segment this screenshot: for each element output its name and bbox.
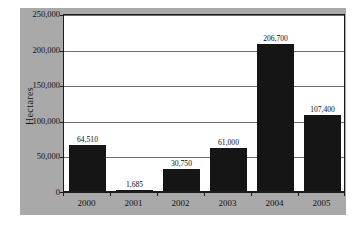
plot-area: 64,5101,68530,75061,000206,700107,400: [63, 14, 345, 192]
plot-inner: 64,5101,68530,75061,000206,700107,400: [64, 15, 344, 191]
x-axis-tick-mark: [204, 192, 205, 196]
y-axis-tick-mark: [60, 122, 64, 123]
x-axis-tick-label-2003: 2003: [219, 197, 237, 209]
x-axis-tick-label-2001: 2001: [125, 197, 143, 209]
bar-value-label-2005: 107,400: [310, 106, 335, 114]
y-axis-tick-label: 250,000: [26, 10, 60, 19]
bar-value-label-2001: 1,685: [126, 181, 143, 189]
y-axis-tick-label: 0: [26, 188, 60, 197]
x-axis-tick-label-2005: 2005: [313, 197, 331, 209]
chart-figure: Hectares 050,000100,000150,000200,000250…: [0, 0, 354, 227]
y-axis-tick-label: 50,000: [26, 152, 60, 161]
gridline: [64, 122, 344, 123]
x-axis-tick-label-2004: 2004: [266, 197, 284, 209]
x-axis-tick-mark: [298, 192, 299, 196]
y-axis-tick-label: 200,000: [26, 45, 60, 54]
y-axis-tick-label: 100,000: [26, 117, 60, 126]
y-axis-tick-mark: [60, 86, 64, 87]
y-axis-tick-mark: [60, 51, 64, 52]
gridline: [64, 86, 344, 87]
y-axis-tick-mark: [60, 157, 64, 158]
x-axis-tick-mark: [110, 192, 111, 196]
bar-2003: [210, 148, 247, 191]
gridline: [64, 51, 344, 52]
x-axis-tick-mark: [157, 192, 158, 196]
bar-value-label-2002: 30,750: [171, 160, 192, 168]
x-axis-tick-labels: 200020012002200320042005: [63, 197, 345, 211]
gridline: [64, 15, 344, 16]
bar-value-label-2003: 61,000: [218, 139, 239, 147]
x-axis-tick-label-2002: 2002: [172, 197, 190, 209]
bar-value-label-2004: 206,700: [263, 35, 288, 43]
bar-2000: [69, 145, 106, 191]
bar-2001: [116, 190, 153, 191]
y-axis-tick-label: 150,000: [26, 81, 60, 90]
bar-2005: [304, 115, 341, 191]
bar-2004: [257, 44, 294, 191]
x-axis-tick-mark: [63, 192, 64, 196]
bar-2002: [163, 169, 200, 191]
y-axis-tick-labels: 050,000100,000150,000200,000250,000: [26, 14, 60, 192]
x-axis-tick-label-2000: 2000: [78, 197, 96, 209]
x-axis-tick-mark: [344, 192, 345, 196]
bar-value-label-2000: 64,510: [77, 136, 98, 144]
x-axis-tick-mark: [251, 192, 252, 196]
y-axis-tick-mark: [60, 15, 64, 16]
gridline: [64, 157, 344, 158]
